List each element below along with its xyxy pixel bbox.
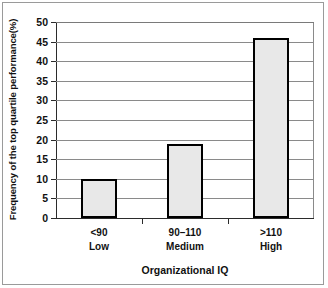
- x-axis-title: Organizational IQ: [56, 264, 314, 276]
- x-category-label-line2: Medium: [142, 240, 228, 254]
- y-tick-label: 25: [36, 114, 48, 126]
- y-tick-label: 35: [36, 75, 48, 87]
- x-category-label: >110High: [228, 226, 314, 254]
- y-tick-label: 20: [36, 134, 48, 146]
- y-axis-title: Frequency of the top quartile performanc…: [4, 0, 22, 238]
- gridline: [56, 218, 314, 219]
- x-tick-mark: [142, 218, 143, 224]
- x-category-label-line1: 90–110: [169, 227, 202, 238]
- bar: [167, 144, 203, 218]
- y-tick-label: 30: [36, 94, 48, 106]
- y-tick-label: 0: [42, 212, 48, 224]
- y-tick-label: 45: [36, 36, 48, 48]
- x-axis-category-labels: <90Low90–110Medium>110High: [56, 226, 314, 260]
- y-tick-label: 5: [42, 192, 48, 204]
- y-tick-label: 15: [36, 153, 48, 165]
- y-tick-mark: [51, 218, 56, 219]
- y-tick-label: 40: [36, 55, 48, 67]
- bar-series: [56, 22, 314, 218]
- x-tick-mark: [228, 218, 229, 224]
- y-axis-title-text: Frequency of the top quartile performanc…: [8, 18, 19, 219]
- bar: [81, 179, 117, 218]
- x-category-label-line2: High: [228, 240, 314, 254]
- y-tick-label: 10: [36, 173, 48, 185]
- y-tick-label: 50: [36, 16, 48, 28]
- x-category-label-line1: <90: [91, 227, 108, 238]
- x-category-label-line2: Low: [56, 240, 142, 254]
- x-category-label-line1: >110: [260, 227, 282, 238]
- x-category-label: 90–110Medium: [142, 226, 228, 254]
- bar-chart-figure: Frequency of the top quartile performanc…: [0, 0, 328, 288]
- bar: [253, 38, 289, 218]
- x-category-label: <90Low: [56, 226, 142, 254]
- plot-area: 05101520253035404550: [56, 22, 314, 218]
